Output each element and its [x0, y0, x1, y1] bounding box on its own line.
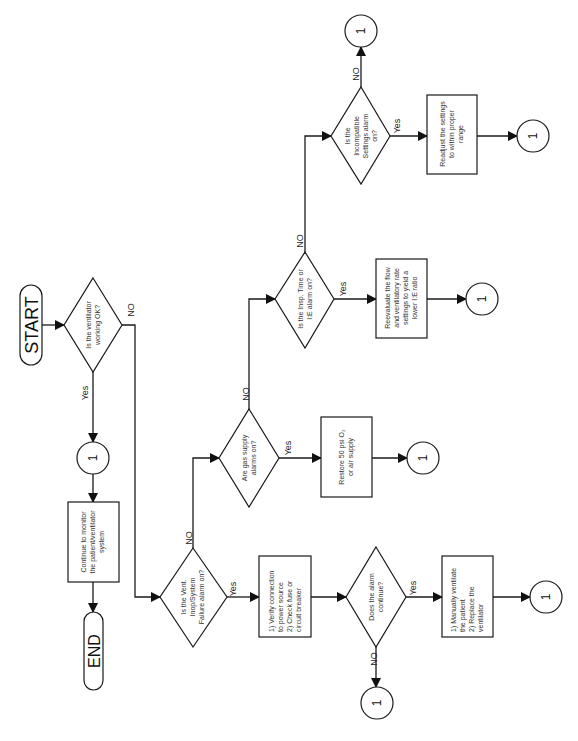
- no-label: NO: [126, 303, 136, 317]
- process-text-line: and ventilatory rate: [393, 268, 401, 328]
- decision-ventilator-ok[interactable]: Is the ventilator working OK?: [64, 278, 122, 372]
- connector-circle-reevaluate[interactable]: 1: [466, 283, 498, 315]
- connector-label: 1: [370, 699, 384, 706]
- no-label: NO: [184, 531, 194, 545]
- no-label: NO: [241, 387, 251, 401]
- process-text-line: or air supply: [347, 437, 355, 476]
- decision-text-line: Is the: [344, 127, 351, 144]
- connector-circle-incompatible-no[interactable]: 1: [345, 15, 377, 47]
- yes-label: Yes: [228, 581, 238, 596]
- decision-text-line: alarms on?: [250, 441, 257, 476]
- decision-text-line: Is the Vent.: [180, 579, 187, 614]
- decision-insp-time[interactable]: Is the Insp. Time or I:E alarm on?: [275, 252, 334, 348]
- yes-label: Yes: [408, 580, 418, 595]
- process-manual-ventilate[interactable]: 1) Manually ventilate the patient 2) Rep…: [442, 556, 493, 637]
- end-label: END: [86, 634, 103, 668]
- process-text-line: settings to yield a: [402, 271, 410, 325]
- start-terminal[interactable]: START: [20, 285, 42, 365]
- decision-text-line: working OK?: [94, 305, 102, 346]
- flowchart-canvas: START END Is the ventilator working OK? …: [0, 0, 578, 741]
- connector-circle-readjust[interactable]: 1: [517, 120, 549, 152]
- process-text-line: to power source: [277, 582, 285, 632]
- process-text-line: Reevaluate the flow: [384, 266, 391, 328]
- edge-gas-supply-no: [249, 299, 275, 409]
- process-text-line: system: [98, 531, 106, 553]
- process-text-line: Restore 50 psi O₂: [338, 429, 346, 485]
- process-text-line: 2) Check fuse or: [286, 580, 294, 632]
- decision-gas-supply[interactable]: Are gas supply alarms on?: [219, 409, 279, 507]
- process-text-line: ventilator: [477, 603, 484, 632]
- no-label: NO: [295, 234, 305, 248]
- decision-text-line: Does the alarm: [368, 573, 375, 621]
- process-continue-monitor[interactable]: Continue to monitor the patient/ventilat…: [68, 502, 119, 582]
- decision-incompatible-settings[interactable]: Is the Incompatible Settings alarm on?: [331, 87, 390, 184]
- process-text-line: the patient: [459, 599, 467, 632]
- process-restore-gas[interactable]: Restore 50 psi O₂ or air supply: [321, 417, 372, 497]
- process-text-line: Continue to monitor: [80, 511, 87, 573]
- no-label: NO: [351, 67, 361, 81]
- process-text-line: Readjust the settings: [439, 101, 447, 167]
- decision-text-line: Incompatible: [353, 116, 361, 156]
- no-label: NO: [369, 652, 379, 666]
- process-text-line: 2) Replace the: [468, 586, 476, 632]
- start-label: START: [22, 296, 42, 353]
- connector-circle-restore[interactable]: 1: [407, 442, 439, 474]
- decision-text-line: Is the ventilator: [85, 301, 92, 349]
- connector-label: 1: [416, 454, 430, 461]
- yes-label: Yes: [338, 281, 348, 296]
- edge-vent-inop-no: [193, 458, 219, 548]
- decision-text-line: I:E alarm on?: [306, 278, 313, 320]
- process-text-line: 1) Manually ventilate: [450, 568, 458, 632]
- yes-label: Yes: [392, 118, 402, 133]
- connector-label: 1: [475, 295, 489, 302]
- decision-text-line: Inop/System: [189, 577, 197, 616]
- process-text-line: range: [457, 125, 465, 143]
- edge-insp-time-no: [305, 136, 331, 252]
- process-text-line: the patient/ventilator: [89, 510, 97, 574]
- process-reevaluate[interactable]: Reevaluate the flow and ventilatory rate…: [376, 259, 427, 338]
- end-terminal[interactable]: END: [84, 612, 103, 690]
- decision-text-line: Is the Insp. Time or: [297, 269, 305, 329]
- process-text-line: 1) Verify connection: [268, 570, 276, 632]
- decision-text-line: on?: [371, 130, 378, 142]
- connector-label: 1: [526, 132, 540, 139]
- decision-text-line: continue?: [377, 582, 384, 612]
- connector-label: 1: [354, 27, 368, 34]
- connector-label: 1: [86, 454, 100, 461]
- process-text-line: to within proper: [448, 109, 456, 158]
- decision-text-line: Failure alarm on?: [198, 570, 205, 625]
- connector-circle-alarm-no[interactable]: 1: [361, 687, 393, 719]
- connector-circle-main[interactable]: 1: [77, 442, 109, 474]
- connector-circle-manual[interactable]: 1: [530, 581, 562, 613]
- yes-label: Yes: [80, 385, 90, 400]
- process-readjust[interactable]: Readjust the settings to within proper r…: [427, 95, 477, 174]
- yes-label: Yes: [283, 440, 293, 455]
- process-text-line: circuit breaker: [295, 587, 302, 632]
- process-text-line: lower I:E ratio: [411, 276, 418, 319]
- decision-vent-inop[interactable]: Is the Vent. Inop/System Failure alarm o…: [160, 548, 227, 647]
- edge-ventilator-ok-no: [122, 325, 160, 597]
- decision-alarm-continue[interactable]: Does the alarm continue?: [346, 547, 406, 647]
- decision-text-line: Are gas supply: [241, 434, 249, 481]
- decision-text-line: Settings alarm: [362, 113, 370, 158]
- connector-label: 1: [539, 593, 553, 600]
- process-verify-power[interactable]: 1) Verify connection to power source 2) …: [259, 556, 311, 637]
